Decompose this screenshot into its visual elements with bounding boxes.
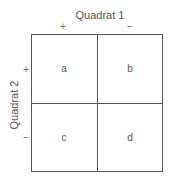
cell-c: c xyxy=(31,103,97,172)
cell-d: d xyxy=(97,103,163,172)
cell-c-label: c xyxy=(62,132,67,143)
cell-b: b xyxy=(97,34,163,103)
cell-d-label: d xyxy=(127,132,133,143)
cell-a-label: a xyxy=(61,63,67,74)
cell-a: a xyxy=(31,34,97,103)
quadrat-2-axis-title: Quadrat 2 xyxy=(7,65,21,145)
top-minus-sign: − xyxy=(124,21,136,33)
top-plus-sign: + xyxy=(57,21,69,33)
cell-b-label: b xyxy=(127,63,133,74)
quadrat-1-axis-title: Quadrat 1 xyxy=(60,8,140,22)
